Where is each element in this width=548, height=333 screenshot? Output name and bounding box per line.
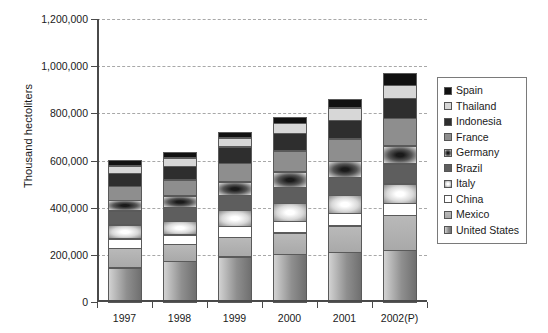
legend-item-indonesia: Indonesia xyxy=(444,114,519,130)
x-tick-mark xyxy=(317,302,318,308)
bar-segment-united-states xyxy=(108,268,142,303)
bar-2002-p xyxy=(383,66,417,302)
y-tick-mark xyxy=(91,255,97,256)
swatch-thailand-icon xyxy=(444,102,452,110)
legend-item-brazil: Brazil xyxy=(444,161,519,177)
y-tick-mark xyxy=(91,113,97,114)
x-tick-mark xyxy=(207,302,208,308)
gridline xyxy=(97,19,427,20)
bar-segment-united-states xyxy=(328,252,362,303)
swatch-indonesia-icon xyxy=(444,118,452,126)
swatch-china-icon xyxy=(444,195,452,203)
y-axis-line xyxy=(97,19,99,302)
legend-label: Germany xyxy=(456,145,499,161)
bar-segment-mexico xyxy=(383,215,417,251)
chart-legend: SpainThailandIndonesiaFranceGermanyBrazi… xyxy=(437,77,527,244)
legend-label: France xyxy=(456,130,489,146)
x-tick-mark xyxy=(372,302,373,308)
legend-label: Thailand xyxy=(456,99,496,115)
bar-segment-italy xyxy=(383,184,417,204)
legend-item-italy: Italy xyxy=(444,176,519,192)
legend-label: Italy xyxy=(456,176,475,192)
bar-segment-france xyxy=(273,151,307,173)
gridline xyxy=(97,66,427,67)
legend-item-thailand: Thailand xyxy=(444,99,519,115)
bar-segment-brazil xyxy=(163,207,197,222)
gridline xyxy=(97,113,427,114)
bar-segment-indonesia xyxy=(383,98,417,119)
bar-1997 xyxy=(108,153,142,302)
bar-segment-indonesia xyxy=(218,147,252,164)
bar-segment-united-states xyxy=(273,254,307,302)
bar-segment-france xyxy=(218,163,252,182)
bar-segment-brazil xyxy=(328,177,362,195)
bar-segment-indonesia xyxy=(328,120,362,139)
bar-segment-brazil xyxy=(218,195,252,211)
x-tick-label: 1999 xyxy=(223,312,246,324)
y-tick-label: 600,000 xyxy=(50,155,88,167)
y-axis-title: Thousand hectoliters xyxy=(22,46,34,226)
swatch-germany-icon xyxy=(444,149,452,157)
bar-segment-italy xyxy=(218,210,252,227)
bar-segment-italy xyxy=(163,221,197,235)
bar-2000 xyxy=(273,110,307,302)
bar-segment-mexico xyxy=(108,248,142,268)
bar-segment-thailand xyxy=(383,85,417,99)
x-tick-label: 2002(P) xyxy=(381,312,418,324)
bar-segment-china xyxy=(328,213,362,226)
y-tick-label: 200,000 xyxy=(50,249,88,261)
bar-segment-mexico xyxy=(163,244,197,262)
x-tick-label: 2000 xyxy=(278,312,301,324)
bar-segment-mexico xyxy=(328,226,362,253)
legend-label: China xyxy=(456,192,483,208)
legend-item-china: China xyxy=(444,192,519,208)
legend-item-mexico: Mexico xyxy=(444,207,519,223)
bar-segment-china xyxy=(218,226,252,238)
gridline xyxy=(97,161,427,162)
x-tick-mark xyxy=(152,302,153,308)
bar-segment-china xyxy=(273,221,307,233)
y-tick-label: 0 xyxy=(82,296,88,308)
bar-segment-united-states xyxy=(218,257,252,303)
bar-segment-brazil xyxy=(383,164,417,185)
y-tick-mark xyxy=(91,66,97,67)
bar-segment-china xyxy=(383,203,417,216)
y-tick-mark xyxy=(91,161,97,162)
x-tick-label: 2001 xyxy=(333,312,356,324)
bar-segment-germany xyxy=(273,172,307,188)
y-tick-mark xyxy=(91,19,97,20)
bar-segment-germany xyxy=(383,146,417,164)
y-tick-label: 1,000,000 xyxy=(41,60,88,72)
bar-2001 xyxy=(328,92,362,302)
x-tick-mark xyxy=(427,302,428,308)
bar-1999 xyxy=(218,125,252,302)
y-tick-label: 400,000 xyxy=(50,202,88,214)
bar-segment-germany xyxy=(108,200,142,211)
gridline xyxy=(97,208,427,209)
y-tick-label: 1,200,000 xyxy=(41,13,88,25)
bar-segment-brazil xyxy=(108,211,142,226)
legend-label: Mexico xyxy=(456,207,489,223)
bar-segment-germany xyxy=(163,196,197,208)
legend-label: Brazil xyxy=(456,161,482,177)
swatch-france-icon xyxy=(444,133,452,141)
legend-item-united-states: United States xyxy=(444,223,519,239)
plot-frame: 0200,000400,000600,000800,0001,000,0001,… xyxy=(97,19,427,302)
y-tick-mark xyxy=(91,208,97,209)
x-tick-label: 1998 xyxy=(168,312,191,324)
bar-segment-italy xyxy=(328,195,362,214)
legend-label: United States xyxy=(456,223,519,239)
swatch-spain-icon xyxy=(444,87,452,95)
bar-segment-mexico xyxy=(273,233,307,255)
bar-segment-mexico xyxy=(218,237,252,257)
bar-segment-united-states xyxy=(383,250,417,302)
bar-segment-brazil xyxy=(273,187,307,204)
stacked-bar-chart: Thousand hectoliters 0200,000400,000600,… xyxy=(0,0,548,333)
bar-segment-italy xyxy=(108,225,142,240)
legend-label: Indonesia xyxy=(456,114,502,130)
bar-segment-spain xyxy=(383,73,417,86)
bar-segment-france xyxy=(163,180,197,197)
gridline xyxy=(97,255,427,256)
plot-area: 0200,000400,000600,000800,0001,000,0001,… xyxy=(97,19,427,302)
bar-segment-france xyxy=(328,139,362,162)
